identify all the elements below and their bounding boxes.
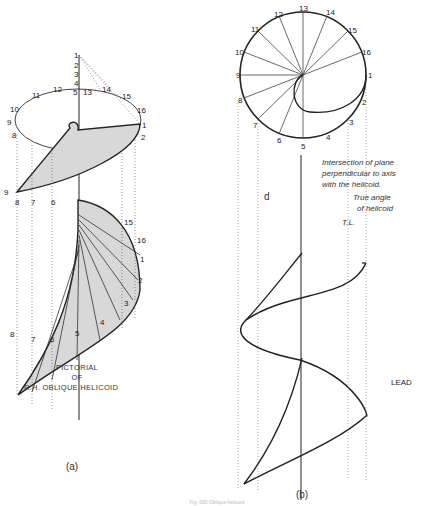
svg-text:16: 16 <box>362 48 371 57</box>
svg-text:6: 6 <box>51 198 56 207</box>
svg-text:(a): (a) <box>66 461 78 472</box>
svg-text:LEAD: LEAD <box>391 378 412 387</box>
svg-text:R.H. OBLIQUE HELICOID: R.H. OBLIQUE HELICOID <box>24 383 119 392</box>
svg-text:5: 5 <box>75 329 80 338</box>
svg-text:OF: OF <box>71 373 82 382</box>
svg-text:14: 14 <box>102 85 111 94</box>
svg-text:11: 11 <box>251 25 260 34</box>
svg-text:perpendicular to axis: perpendicular to axis <box>321 169 396 178</box>
annotations: Intersection of plane perpendicular to a… <box>264 158 412 500</box>
svg-text:10: 10 <box>10 105 19 114</box>
svg-text:2: 2 <box>74 61 79 70</box>
svg-text:T.L.: T.L. <box>342 218 355 227</box>
svg-text:8: 8 <box>10 330 15 339</box>
svg-text:12: 12 <box>53 85 62 94</box>
svg-text:1: 1 <box>140 255 145 264</box>
svg-text:1: 1 <box>368 71 373 80</box>
svg-text:14: 14 <box>326 8 335 17</box>
svg-text:12: 12 <box>274 10 283 19</box>
svg-text:3: 3 <box>124 299 129 308</box>
figure-caption: Fig. 000 Oblique helicoid <box>189 499 244 505</box>
svg-text:8: 8 <box>12 131 17 140</box>
svg-text:6: 6 <box>277 136 282 145</box>
svg-text:15: 15 <box>122 92 131 101</box>
svg-text:8: 8 <box>15 198 20 207</box>
svg-text:7: 7 <box>253 121 258 130</box>
svg-text:6: 6 <box>50 335 55 344</box>
svg-text:2: 2 <box>141 133 146 142</box>
svg-text:2: 2 <box>362 98 367 107</box>
svg-text:(b): (b) <box>296 489 308 500</box>
svg-text:PICTORIAL: PICTORIAL <box>56 363 98 372</box>
svg-text:10: 10 <box>235 48 244 57</box>
svg-text:16: 16 <box>137 106 146 115</box>
svg-text:5: 5 <box>73 88 78 97</box>
svg-text:11: 11 <box>32 91 41 100</box>
svg-text:7: 7 <box>31 335 36 344</box>
svg-text:9: 9 <box>236 71 241 80</box>
svg-text:2: 2 <box>138 276 143 285</box>
svg-text:1: 1 <box>74 51 79 60</box>
svg-text:3: 3 <box>349 118 354 127</box>
svg-text:4: 4 <box>100 318 105 327</box>
top-view-labels: 13 14 15 16 1 2 3 4 5 6 7 8 9 10 11 12 <box>235 4 373 151</box>
svg-text:4: 4 <box>74 79 79 88</box>
svg-text:13: 13 <box>83 88 92 97</box>
svg-text:15: 15 <box>124 218 133 227</box>
svg-text:1: 1 <box>142 121 147 130</box>
helicoid-drawing: 1 2 3 4 5 13 11 12 14 15 16 10 9 8 1 2 9… <box>0 0 434 506</box>
svg-text:7: 7 <box>31 198 36 207</box>
svg-text:3: 3 <box>74 70 79 79</box>
svg-text:8: 8 <box>238 96 243 105</box>
svg-text:9: 9 <box>4 188 9 197</box>
svg-text:4: 4 <box>326 133 331 142</box>
svg-text:True angle: True angle <box>353 193 391 202</box>
svg-text:16: 16 <box>137 236 146 245</box>
svg-text:15: 15 <box>348 26 357 35</box>
svg-text:9: 9 <box>7 118 12 127</box>
svg-text:13: 13 <box>299 4 308 13</box>
svg-text:d: d <box>264 191 270 202</box>
svg-text:of helicoid: of helicoid <box>357 204 394 213</box>
svg-text:5: 5 <box>301 142 306 151</box>
svg-text:with the helicoid.: with the helicoid. <box>322 180 381 189</box>
svg-text:Intersection of plane: Intersection of plane <box>322 158 395 167</box>
